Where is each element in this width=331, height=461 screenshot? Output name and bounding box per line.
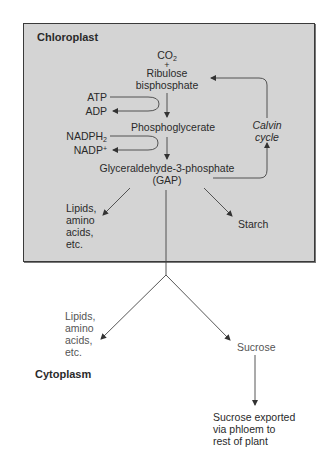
gap-line2: (GAP) xyxy=(152,174,181,186)
sucrose-label: Sucrose xyxy=(237,341,276,353)
arrow-atp-adp xyxy=(110,97,159,111)
arrow-to-sucrose xyxy=(166,275,230,340)
arrow-nadph-nadp xyxy=(110,136,158,150)
rubp-line1: Ribulose xyxy=(147,67,188,79)
calvin-cycle-line2: cycle xyxy=(255,131,279,143)
arrow-to-cyto-lipids xyxy=(101,275,166,339)
nadph-text: NADPH xyxy=(66,130,103,142)
chloroplast-lipids-2: amino xyxy=(66,214,95,226)
cytoplasm-lipids-2: amino xyxy=(65,322,94,334)
chloroplast-lipids-3: acids, xyxy=(66,226,93,238)
cytoplasm-lipids-1: Lipids, xyxy=(65,310,95,322)
arrow-gap-to-lipids xyxy=(103,188,130,215)
nadp-superscript: + xyxy=(103,145,107,152)
starch-label: Starch xyxy=(238,218,268,230)
export-line2: via phloem to xyxy=(213,423,275,435)
export-line3: rest of plant xyxy=(213,435,268,447)
chloroplast-label: Chloroplast xyxy=(37,31,98,43)
arrow-cycle-to-rubp xyxy=(211,78,267,118)
export-line1: Sucrose exported xyxy=(213,411,295,423)
arrow-gap-to-starch xyxy=(204,188,232,216)
gap-line1: Glyceraldehyde-3-phosphate xyxy=(100,162,235,174)
nadph-label: NADPH2 xyxy=(66,130,107,142)
cytoplasm-lipids-4: etc. xyxy=(65,346,82,358)
co2-subscript: 2 xyxy=(173,55,177,62)
adp-label: ADP xyxy=(85,105,107,117)
cytoplasm-lipids-3: acids, xyxy=(65,334,92,346)
chloroplast-lipids-4: etc. xyxy=(66,238,83,250)
phosphoglycerate-label: Phosphoglycerate xyxy=(131,121,215,133)
cytoplasm-label: Cytoplasm xyxy=(35,368,91,380)
atp-label: ATP xyxy=(87,91,107,103)
nadp-text: NADP xyxy=(74,144,103,156)
nadph-subscript: 2 xyxy=(103,136,107,143)
rubp-line2: bisphosphate xyxy=(136,79,198,91)
chloroplast-lipids-1: Lipids, xyxy=(66,202,96,214)
calvin-cycle-line1: Calvin xyxy=(252,119,281,131)
nadp-label: NADP+ xyxy=(74,144,107,156)
